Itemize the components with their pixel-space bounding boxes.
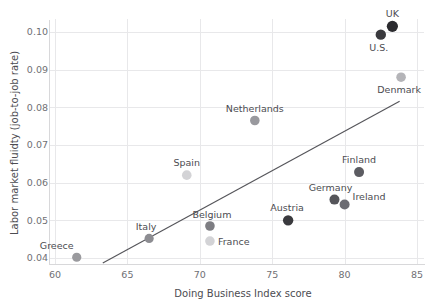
y-tick-label: 0.06 — [27, 177, 48, 188]
data-point-label: U.S. — [369, 42, 388, 53]
data-point-label: Italy — [136, 221, 157, 232]
data-point — [329, 195, 339, 205]
data-point — [396, 72, 406, 82]
grid-lines — [49, 19, 424, 264]
data-point — [387, 21, 398, 32]
data-point — [250, 116, 260, 126]
data-point-label: Ireland — [353, 191, 386, 202]
data-point — [182, 170, 192, 180]
data-point — [283, 215, 293, 225]
y-tick-label: 0.09 — [27, 64, 48, 75]
data-point-label: Denmark — [377, 84, 421, 95]
data-point — [72, 253, 81, 262]
x-axis-title: Doing Business Index score — [174, 288, 311, 299]
data-point-label: Belgium — [192, 209, 231, 220]
data-point-label: Austria — [270, 202, 304, 213]
x-axis-tick-labels: 606570758085 — [49, 269, 423, 280]
data-point — [340, 200, 350, 210]
scatter-chart-figure: 0.040.050.060.070.080.090.10 60657075808… — [0, 0, 437, 303]
data-point-label: Spain — [173, 157, 200, 168]
plot-area: 0.040.050.060.070.080.090.10 60657075808… — [0, 0, 437, 303]
data-points — [72, 21, 406, 262]
data-point — [205, 236, 215, 246]
data-point — [376, 29, 386, 39]
data-point-label: France — [218, 236, 250, 247]
x-tick-label: 75 — [266, 269, 278, 280]
data-point-label: UK — [386, 8, 400, 19]
data-point-label: Greece — [40, 240, 74, 251]
y-tick-label: 0.04 — [27, 252, 48, 263]
y-axis-title: Labor market fluidty (job-to-job rate) — [9, 51, 20, 235]
data-point-label: Germany — [309, 182, 353, 193]
y-tick-label: 0.07 — [27, 139, 48, 150]
axis-lines — [50, 20, 425, 265]
y-axis-tick-labels: 0.040.050.060.070.080.090.10 — [27, 26, 48, 263]
x-tick-label: 70 — [194, 269, 206, 280]
data-point — [145, 234, 154, 243]
x-tick-label: 65 — [121, 269, 133, 280]
data-point-label: Netherlands — [226, 103, 284, 114]
y-tick-label: 0.10 — [27, 26, 48, 37]
y-tick-label: 0.08 — [27, 102, 48, 113]
x-tick-label: 85 — [411, 269, 423, 280]
data-point-label: Finland — [342, 154, 376, 165]
data-point — [354, 167, 364, 177]
data-point-labels: GreeceItalySpainBelgiumFranceNetherlands… — [40, 8, 422, 251]
x-tick-label: 80 — [339, 269, 351, 280]
x-tick-label: 60 — [49, 269, 61, 280]
y-tick-label: 0.05 — [27, 215, 48, 226]
data-point — [205, 221, 215, 231]
